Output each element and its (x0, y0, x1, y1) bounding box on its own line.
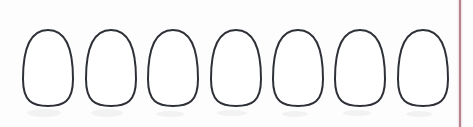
egg-2-outline: egg-2 (86, 30, 136, 106)
egg-7-outline: egg-7 (398, 30, 448, 106)
egg-5-outline: egg-5 (273, 30, 323, 106)
egg-3-outline: egg-3 (148, 30, 198, 106)
paper-smudge-4 (217, 110, 247, 116)
paper-smudge-6 (343, 110, 371, 116)
paper-smudge-5 (282, 111, 308, 117)
paper-smudge-1 (27, 109, 61, 117)
egg-row-figure: egg-1egg-2egg-3egg-4egg-5egg-6egg-7 (0, 0, 473, 127)
paper-smudge-3 (156, 111, 184, 117)
paper-smudge-7 (406, 111, 432, 117)
paper-smudge-layer (27, 109, 432, 117)
egg-1-outline: egg-1 (23, 30, 73, 106)
paper-smudge-2 (91, 109, 123, 117)
egg-4-outline: egg-4 (211, 30, 261, 106)
egg-6-outline: egg-6 (335, 30, 385, 106)
egg-outline-group: egg-1egg-2egg-3egg-4egg-5egg-6egg-7 (23, 30, 448, 106)
screenshot-canvas: egg-1egg-2egg-3egg-4egg-5egg-6egg-7 (0, 0, 473, 127)
